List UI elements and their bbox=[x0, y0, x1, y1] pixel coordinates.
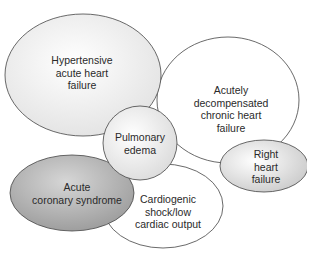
label-cardiogenic-shock: Cardiogenic shock/low cardiac output bbox=[135, 193, 201, 231]
label-acute-coronary-syndrome: Acute coronary syndrome bbox=[32, 181, 122, 206]
label-hypertensive: Hypertensive acute heart failure bbox=[51, 54, 112, 92]
label-right-heart-failure: Right heart failure bbox=[246, 148, 287, 186]
label-acutely-decompensated: Acutely decompensated chronic heart fail… bbox=[194, 84, 269, 134]
label-pulmonary-edema: Pulmonary edema bbox=[115, 131, 165, 156]
